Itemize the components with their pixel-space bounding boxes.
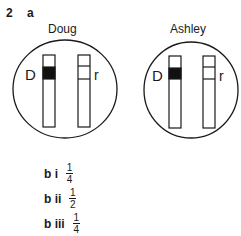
numerator: 1 — [73, 213, 79, 222]
answer-label: b i — [44, 167, 58, 181]
numerator: 1 — [70, 188, 76, 197]
ashley-cell: D r — [144, 42, 238, 138]
doug-cell: D r — [13, 40, 117, 138]
denominator: 4 — [73, 225, 79, 234]
answer-fraction: 1 4 — [66, 163, 73, 184]
cell-diagram: D r D r — [0, 0, 241, 150]
label-dominant-allele: D — [25, 66, 36, 83]
label-recessive-allele: r — [219, 68, 224, 84]
answer-b-iii: b iii 1 4 — [44, 213, 80, 234]
label-dominant-allele: D — [152, 67, 163, 84]
chromosome-left — [169, 56, 181, 128]
answer-label: b ii — [44, 192, 61, 206]
answer-fraction: 1 2 — [69, 188, 76, 209]
numerator: 1 — [67, 163, 73, 172]
denominator: 2 — [70, 200, 76, 209]
allele-band-dominant — [43, 67, 55, 79]
answer-label: b iii — [44, 217, 65, 231]
answer-fraction: 1 4 — [73, 213, 80, 234]
denominator: 4 — [67, 175, 73, 184]
label-recessive-allele: r — [94, 67, 99, 83]
answer-b-i: b i 1 4 — [44, 163, 73, 184]
allele-band-dominant — [169, 68, 181, 79]
cell-outline — [144, 42, 238, 138]
answer-b-ii: b ii 1 2 — [44, 188, 76, 209]
chromosome-left — [43, 55, 55, 127]
cell-outline — [13, 40, 117, 138]
